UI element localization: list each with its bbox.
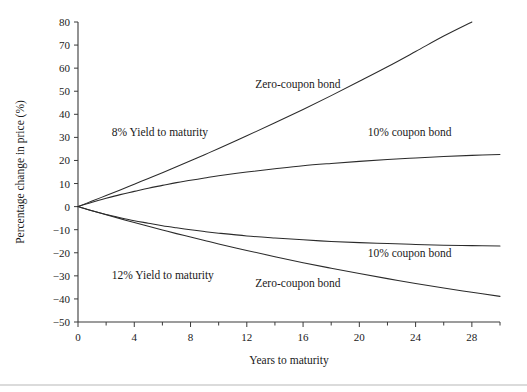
chart-annotation-label: 10% coupon bond <box>368 126 452 139</box>
chart-annotation-label: 12% Yield to maturity <box>112 269 214 282</box>
y-tick-label: −50 <box>53 316 71 328</box>
x-axis-title: Years to maturity <box>249 354 329 367</box>
bond-price-sensitivity-chart: −50−40−30−20−1001020304050607080 0481216… <box>0 0 527 392</box>
y-tick-label: 50 <box>59 85 71 97</box>
x-tick-label: 20 <box>354 331 366 343</box>
y-tick-label: 80 <box>59 16 71 28</box>
y-tick-label: −40 <box>53 293 71 305</box>
chart-figure: −50−40−30−20−1001020304050607080 0481216… <box>0 0 527 392</box>
x-tick-label: 16 <box>298 331 310 343</box>
y-axis-title: Percentage change in price (%) <box>14 100 27 244</box>
x-tick-label: 12 <box>241 331 252 343</box>
x-tick-label: 0 <box>75 331 81 343</box>
chart-annotation-label: Zero-coupon bond <box>255 277 341 290</box>
x-tick-label: 28 <box>466 331 478 343</box>
y-tick-label: −20 <box>53 247 71 259</box>
y-tick-label: 0 <box>65 201 71 213</box>
x-tick-label: 24 <box>410 331 422 343</box>
y-tick-label: 70 <box>59 39 71 51</box>
y-tick-label: 30 <box>59 131 71 143</box>
y-tick-label: 60 <box>59 62 71 74</box>
y-tick-label: 20 <box>59 154 71 166</box>
y-tick-label: 40 <box>59 108 71 120</box>
y-tick-label: −10 <box>53 224 71 236</box>
y-tick-label: 10 <box>59 178 71 190</box>
chart-annotation-label: 8% Yield to maturity <box>112 126 209 139</box>
x-tick-label: 4 <box>132 331 138 343</box>
chart-annotation-label: 10% coupon bond <box>368 247 452 260</box>
x-tick-label: 8 <box>188 331 194 343</box>
y-tick-label: −30 <box>53 270 71 282</box>
chart-annotation-label: Zero-coupon bond <box>255 78 341 91</box>
